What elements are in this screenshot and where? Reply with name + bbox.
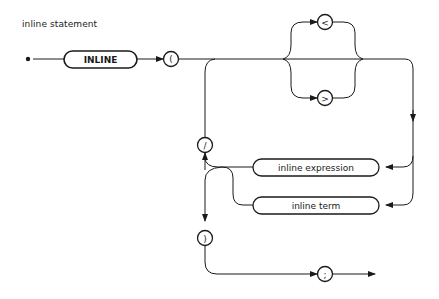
loop-to-slash [205,59,215,137]
semicolon-symbol: ; [323,270,326,280]
branch-down-greater-than [283,59,317,98]
start-dot [26,57,30,61]
term-left-curve [222,167,253,205]
inline-expression-label: inline expression [278,163,354,173]
right-to-expression [386,156,413,167]
syntax-diagram: INLINE inline expression inline term ( <… [0,0,439,299]
split-down [205,167,222,221]
branch-up-return [333,22,363,59]
branch-down-return [333,59,363,98]
branch-up-less-than [283,22,317,59]
inline-keyword-label: INLINE [84,55,118,65]
open-paren-symbol: ( [169,54,173,64]
right-down-line [386,59,413,205]
expression-to-slash [205,153,253,167]
close-paren-symbol: ) [203,234,207,244]
inline-term-label: inline term [292,201,341,211]
less-than-symbol: < [321,18,329,28]
greater-than-symbol: > [321,94,329,104]
close-paren-to-semicolon [205,246,317,274]
